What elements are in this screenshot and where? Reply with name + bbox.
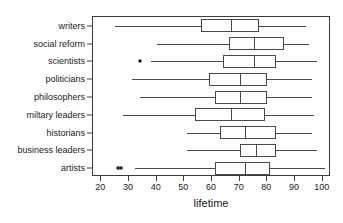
median-line xyxy=(240,73,241,86)
whisker-low xyxy=(140,97,215,98)
x-tick xyxy=(183,176,184,181)
category-axis-labels: writerssocial reformscientistspolitician… xyxy=(0,17,85,175)
y-tick xyxy=(87,114,93,115)
box-iqr xyxy=(195,108,264,121)
box-iqr xyxy=(209,73,267,86)
whisker-low xyxy=(151,61,223,62)
whisker-low xyxy=(115,26,201,27)
category-label-writers: writers xyxy=(59,21,86,30)
outlier-point xyxy=(139,60,142,63)
box-iqr xyxy=(215,162,270,175)
x-tick-label: 60 xyxy=(206,183,216,192)
category-label-business-leaders: business leaders xyxy=(17,146,85,155)
category-label-historians: historians xyxy=(46,128,85,137)
whisker-high xyxy=(267,79,311,80)
whisker-high xyxy=(276,133,312,134)
median-line xyxy=(245,162,246,175)
median-line xyxy=(245,126,246,139)
x-tick-label: 30 xyxy=(123,183,133,192)
median-line xyxy=(240,91,241,104)
whisker-high xyxy=(265,115,315,116)
whisker-low xyxy=(187,133,220,134)
category-label-philosophers: philosophers xyxy=(34,93,85,102)
x-tick-label: 50 xyxy=(178,183,188,192)
outlier-point xyxy=(119,167,122,170)
whisker-low xyxy=(135,168,215,169)
plot-area xyxy=(93,17,329,175)
x-axis-title: lifetime xyxy=(92,198,330,209)
box-iqr xyxy=(229,37,284,50)
whisker-high xyxy=(267,97,311,98)
plot-frame: writerssocial reformscientistspolitician… xyxy=(92,16,330,176)
x-tick-label: 40 xyxy=(151,183,161,192)
x-tick-label: 90 xyxy=(289,183,299,192)
y-tick xyxy=(87,79,93,80)
whisker-high xyxy=(270,168,325,169)
whisker-low xyxy=(132,79,209,80)
x-tick-label: 100 xyxy=(314,183,329,192)
x-tick xyxy=(128,176,129,181)
whisker-high xyxy=(284,44,309,45)
y-tick xyxy=(87,61,93,62)
category-label-scientists: scientists xyxy=(48,57,85,66)
y-tick xyxy=(87,168,93,169)
x-tick xyxy=(239,176,240,181)
y-tick xyxy=(87,150,93,151)
whisker-high xyxy=(276,150,318,151)
boxplot-figure: writerssocial reformscientistspolitician… xyxy=(0,0,343,223)
category-label-miltary-leaders: miltary leaders xyxy=(26,110,85,119)
median-line xyxy=(254,37,255,50)
x-axis: 2030405060708090100 xyxy=(92,176,330,177)
category-label-artists: artists xyxy=(61,164,85,173)
x-tick xyxy=(211,176,212,181)
whisker-high xyxy=(259,26,306,27)
x-tick-label: 20 xyxy=(95,183,105,192)
whisker-low xyxy=(157,44,229,45)
box-iqr xyxy=(240,144,276,157)
y-tick xyxy=(87,132,93,133)
x-tick-label: 70 xyxy=(234,183,244,192)
median-line xyxy=(231,19,232,32)
median-line xyxy=(256,144,257,157)
whisker-high xyxy=(276,61,318,62)
x-tick-label: 80 xyxy=(261,183,271,192)
x-tick xyxy=(266,176,267,181)
x-tick xyxy=(100,176,101,181)
box-iqr xyxy=(223,55,276,68)
box-iqr xyxy=(201,19,259,32)
box-iqr xyxy=(215,91,268,104)
category-label-politicians: politicians xyxy=(45,75,85,84)
x-tick xyxy=(156,176,157,181)
median-line xyxy=(254,55,255,68)
y-tick xyxy=(87,43,93,44)
x-tick xyxy=(322,176,323,181)
whisker-low xyxy=(123,115,195,116)
box-iqr xyxy=(220,126,275,139)
median-line xyxy=(231,108,232,121)
y-tick xyxy=(87,97,93,98)
x-tick xyxy=(294,176,295,181)
category-label-social-reform: social reform xyxy=(33,39,85,48)
whisker-low xyxy=(187,150,240,151)
y-tick xyxy=(87,25,93,26)
